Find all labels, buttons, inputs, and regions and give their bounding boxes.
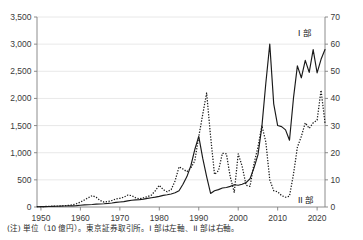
left-axis-tick-label: 1,500 xyxy=(10,121,32,131)
left-axis-tick-label: 1,000 xyxy=(10,148,32,158)
series-line-ii-bu xyxy=(37,90,325,206)
chart-canvas: 00500101,000201,500302,000402,500503,000… xyxy=(0,0,363,240)
x-axis-tick-label: 1960 xyxy=(71,213,90,223)
x-axis-tick-label: 2000 xyxy=(229,213,248,223)
chart-note: (注) 単位（10 億円）。東京証券取引所。I 部は左軸、II 部は右軸。 xyxy=(7,225,239,233)
right-axis-tick-label: 20 xyxy=(331,148,341,158)
x-axis-tick-label: 2010 xyxy=(268,213,287,223)
x-axis-tick-label: 1970 xyxy=(110,213,129,223)
left-axis-tick-label: 3,000 xyxy=(10,39,32,49)
left-axis-tick-label: 2,500 xyxy=(10,66,32,76)
x-axis-tick-label: 1980 xyxy=(150,213,169,223)
left-axis-tick-label: 2,000 xyxy=(10,93,32,103)
x-axis-tick-label: 2020 xyxy=(308,213,327,223)
left-axis-tick-label: 500 xyxy=(17,175,31,185)
chart-title-faint xyxy=(0,0,363,7)
left-axis-tick-label: 0 xyxy=(27,202,32,212)
x-axis-tick-label: 1950 xyxy=(31,213,50,223)
right-axis-tick-label: 0 xyxy=(331,202,336,212)
right-axis-tick-label: 70 xyxy=(331,12,341,22)
series-label-i-bu: I 部 xyxy=(298,28,312,38)
chart-container: 00500101,000201,500302,000402,500503,000… xyxy=(0,0,363,240)
right-axis-tick-label: 60 xyxy=(331,39,341,49)
right-axis-tick-label: 10 xyxy=(331,175,341,185)
series-label-ii-bu: II 部 xyxy=(298,195,314,205)
right-axis-tick-label: 40 xyxy=(331,93,341,103)
right-axis-tick-label: 50 xyxy=(331,66,341,76)
right-axis-tick-label: 30 xyxy=(331,121,341,131)
x-axis-tick-label: 1990 xyxy=(189,213,208,223)
left-axis-tick-label: 3,500 xyxy=(10,12,32,22)
